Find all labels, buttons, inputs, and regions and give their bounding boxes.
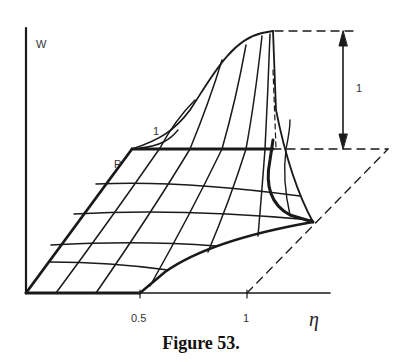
- mesh-row: [51, 243, 216, 246]
- tick-label-0-5: 0.5: [131, 312, 146, 324]
- w-axis-label: W: [36, 38, 47, 50]
- surface-left-edge: [26, 149, 132, 293]
- height-marker-label: 1: [356, 82, 362, 94]
- surface-diagram: W 1 P 1 0.5 1 η: [0, 0, 402, 362]
- mesh-column: [150, 45, 246, 286]
- corner-label-p: P: [114, 158, 121, 170]
- mesh-column: [96, 60, 222, 293]
- arrow-head-down-icon: [339, 134, 347, 149]
- mesh-column: [208, 36, 262, 252]
- tick-label-1: 1: [243, 312, 249, 324]
- mesh-column: [285, 120, 290, 215]
- corner-label-one: 1: [153, 125, 159, 137]
- eta-axis-label: η: [309, 308, 319, 331]
- mesh-row: [50, 262, 168, 270]
- arrow-head-up-icon: [339, 31, 347, 46]
- mesh-column: [56, 100, 195, 293]
- mesh-column: [258, 34, 270, 236]
- figure-caption: Figure 53.: [0, 333, 402, 354]
